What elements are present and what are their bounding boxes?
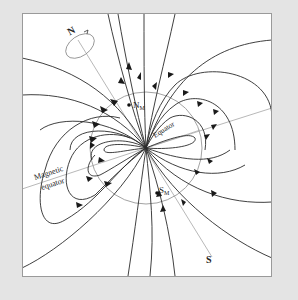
magnetic-north-label: NM xyxy=(133,100,146,111)
geographic-south-label: S xyxy=(206,254,212,265)
magnetic-field-diagram: N S NM SM Equator Magnetic equator xyxy=(0,0,298,300)
geographic-north-label: N xyxy=(65,24,77,38)
rotation-indicator-icon xyxy=(61,29,99,64)
field-lines xyxy=(22,14,272,276)
magnetic-north-pole-marker xyxy=(127,103,131,107)
